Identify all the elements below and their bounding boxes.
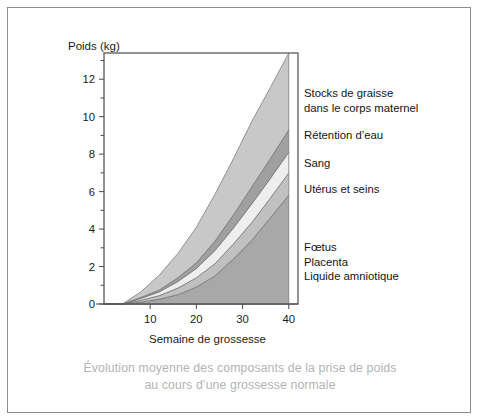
x-tick-label: 40 — [282, 313, 295, 325]
y-tick-label: 2 — [89, 261, 95, 273]
y-tick-label: 12 — [82, 73, 95, 85]
legend-label-fetal-group: Fœtus Placenta Liquide amniotique — [304, 240, 399, 284]
y-tick-label: 8 — [89, 148, 95, 160]
legend-fetal-line2: Placenta — [304, 256, 348, 268]
x-tick-label: 20 — [190, 313, 203, 325]
legend-fat-line2: dans le corps maternel — [304, 102, 418, 114]
stacked-area-chart: 02468101210203040 — [8, 8, 472, 414]
plot-group: 02468101210203040 — [82, 53, 298, 325]
legend-label-blood: Sang — [304, 156, 330, 171]
y-axis-title: Poids (kg) — [68, 40, 120, 52]
legend-fat-line1: Stocks de graisse — [304, 87, 393, 99]
x-tick-label: 30 — [236, 313, 249, 325]
y-tick-label: 10 — [82, 111, 95, 123]
x-axis-title: Semaine de grossesse — [149, 333, 266, 345]
chart-area: 02468101210203040 Poids (kg) Semaine de … — [8, 8, 472, 414]
x-tick-label: 10 — [144, 313, 157, 325]
legend-label-uterus-breasts: Utérus et seins — [304, 182, 379, 197]
legend-label-fat-stores: Stocks de graisse dans le corps maternel — [304, 86, 418, 115]
caption-line-2: au cours d’une grossesse normale — [8, 377, 472, 394]
y-tick-label: 6 — [89, 186, 95, 198]
legend-fetal-line3: Liquide amniotique — [304, 270, 399, 282]
figure-caption: Évolution moyenne des composants de la p… — [8, 360, 472, 393]
y-tick-label: 4 — [89, 223, 95, 235]
figure-page: 02468101210203040 Poids (kg) Semaine de … — [0, 0, 478, 420]
legend-label-water-retention: Rétention d’eau — [304, 128, 383, 143]
figure-border: 02468101210203040 Poids (kg) Semaine de … — [7, 7, 471, 413]
legend-fetal-line1: Fœtus — [304, 241, 337, 253]
y-tick-label: 0 — [89, 298, 95, 310]
caption-line-1: Évolution moyenne des composants de la p… — [8, 360, 472, 377]
